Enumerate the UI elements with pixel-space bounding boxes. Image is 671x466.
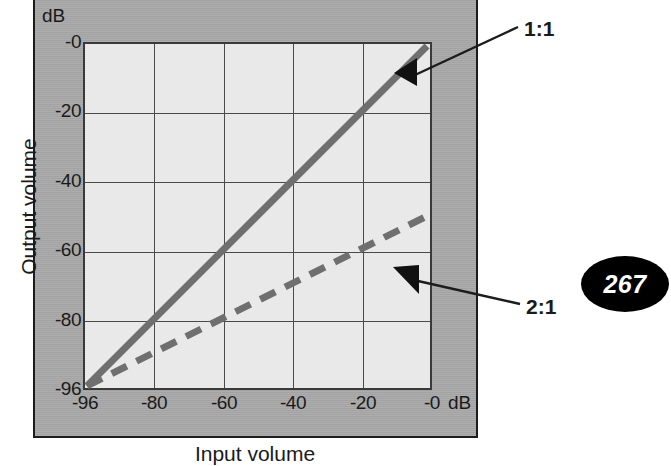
x-tick-4: -20 bbox=[350, 393, 376, 412]
x-tick-3: -40 bbox=[280, 393, 306, 412]
x-tick-1: -80 bbox=[141, 393, 167, 412]
curve-2-to-1 bbox=[87, 216, 427, 386]
curves-layer bbox=[85, 44, 430, 388]
callout-label-2-to-1: 2:1 bbox=[526, 296, 556, 317]
plot-area bbox=[83, 42, 432, 390]
x-tick-5: -0 bbox=[424, 393, 440, 412]
y-tick-0: -0 bbox=[33, 32, 81, 51]
x-tick-2: -60 bbox=[211, 393, 237, 412]
compressor-ratio-figure: dB -0 -20 -40 -60 -80 -96 -96 -80 -60 -4… bbox=[0, 0, 671, 466]
y-tick-2: -40 bbox=[33, 171, 81, 190]
page-number-text: 267 bbox=[581, 256, 669, 312]
y-tick-4: -80 bbox=[33, 310, 81, 329]
y-axis-title: Output volume bbox=[18, 127, 39, 287]
callout-label-1-to-1: 1:1 bbox=[524, 18, 554, 39]
x-tick-0: -96 bbox=[72, 393, 98, 412]
page-number-badge: 267 bbox=[581, 256, 669, 312]
y-tick-1: -20 bbox=[33, 101, 81, 120]
curve-1-to-1 bbox=[87, 46, 427, 386]
x-axis-unit-label: dB bbox=[448, 393, 471, 412]
y-tick-3: -60 bbox=[33, 240, 81, 259]
x-axis-tick-row: -96 -80 -60 -40 -20 -0 dB bbox=[33, 393, 478, 423]
x-axis-title: Input volume bbox=[155, 443, 355, 464]
